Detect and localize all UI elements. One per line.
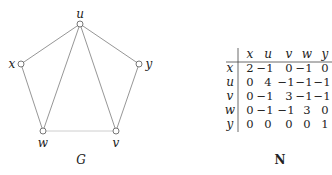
col-header-x: x xyxy=(247,47,254,61)
matrix-cell: −1 xyxy=(257,61,274,75)
matrix-cell: −1 xyxy=(278,75,295,89)
matrix-cell: 4 xyxy=(264,75,271,89)
matrix-cell: −1 xyxy=(296,61,313,75)
matrix-cell: 1 xyxy=(321,117,328,131)
graph-edges xyxy=(21,24,139,131)
matrix-cell: 0 xyxy=(285,61,292,75)
graph-caption: G xyxy=(76,153,86,167)
edge-u-x xyxy=(21,24,80,64)
matrix-cell: 0 xyxy=(321,103,328,117)
row-header-u: u xyxy=(226,75,234,89)
col-header-y: y xyxy=(321,47,329,61)
matrix-cell: −1 xyxy=(257,89,274,103)
matrix-cell: 0 xyxy=(264,117,271,131)
edge-u-y xyxy=(80,24,139,64)
matrix-cell: −1 xyxy=(296,75,313,89)
matrix-cell: 0 xyxy=(246,89,253,103)
node-label-y: y xyxy=(145,57,153,71)
matrix-cell: −1 xyxy=(296,89,313,103)
row-header-w: w xyxy=(225,103,236,117)
node-w xyxy=(40,128,46,134)
matrix-cell: 3 xyxy=(285,89,292,103)
row-header-v: v xyxy=(227,89,234,103)
edge-x-w xyxy=(21,64,43,131)
col-header-w: w xyxy=(302,47,313,61)
node-y xyxy=(136,61,142,67)
figure: uxywv G xuvwy x2−10−10u04−1−1−1v0−13−1−1… xyxy=(0,0,332,175)
node-label-u: u xyxy=(76,7,84,21)
matrix-cell: 0 xyxy=(246,117,253,131)
matrix-cell: 0 xyxy=(246,75,253,89)
matrix-cell: 0 xyxy=(246,103,253,117)
node-x xyxy=(18,61,24,67)
edge-y-v xyxy=(116,64,139,131)
matrix-cell: 0 xyxy=(303,117,310,131)
node-label-x: x xyxy=(9,57,16,71)
col-header-u: u xyxy=(264,47,272,61)
node-u xyxy=(77,21,83,27)
matrix-cell: 0 xyxy=(285,117,292,131)
edge-u-w xyxy=(43,24,80,131)
edge-u-v xyxy=(80,24,116,131)
row-header-x: x xyxy=(227,61,234,75)
matrix-cell: 0 xyxy=(321,61,328,75)
graph-nodes xyxy=(18,21,142,134)
graph-node-labels: uxywv xyxy=(9,7,153,150)
matrix-cell: −1 xyxy=(314,75,331,89)
row-header-y: y xyxy=(226,117,234,131)
matrix-cell: −1 xyxy=(278,103,295,117)
matrix-table: xuvwy x2−10−10u04−1−1−1v0−13−1−1w0−1−130… xyxy=(225,47,332,132)
matrix-cell: −1 xyxy=(314,89,331,103)
matrix-caption: N xyxy=(275,153,286,167)
node-label-w: w xyxy=(38,136,49,150)
matrix-cell: 3 xyxy=(303,103,310,117)
node-v xyxy=(113,128,119,134)
matrix-cell: 2 xyxy=(246,61,253,75)
node-label-v: v xyxy=(113,136,120,150)
col-header-v: v xyxy=(286,47,293,61)
matrix-cell: −1 xyxy=(257,103,274,117)
